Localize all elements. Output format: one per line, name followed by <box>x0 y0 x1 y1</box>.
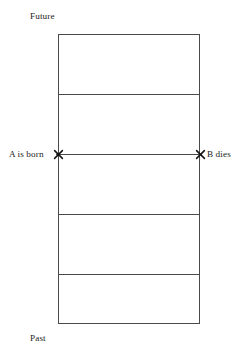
band-divider-lower <box>58 214 200 215</box>
diagram-canvas: Future A is born B dies Past <box>0 0 243 358</box>
future-label: Future <box>30 12 55 21</box>
simultaneity-line <box>56 154 202 155</box>
band-divider-bottom <box>58 274 200 275</box>
x-marker-icon-a-born <box>53 149 64 160</box>
event-label-a-born: A is born <box>9 150 44 159</box>
event-label-b-dies: B dies <box>207 150 231 159</box>
past-label: Past <box>30 334 46 343</box>
x-marker-icon-b-dies <box>195 149 206 160</box>
band-divider-top <box>58 94 200 95</box>
spacetime-block-frame <box>58 34 200 324</box>
